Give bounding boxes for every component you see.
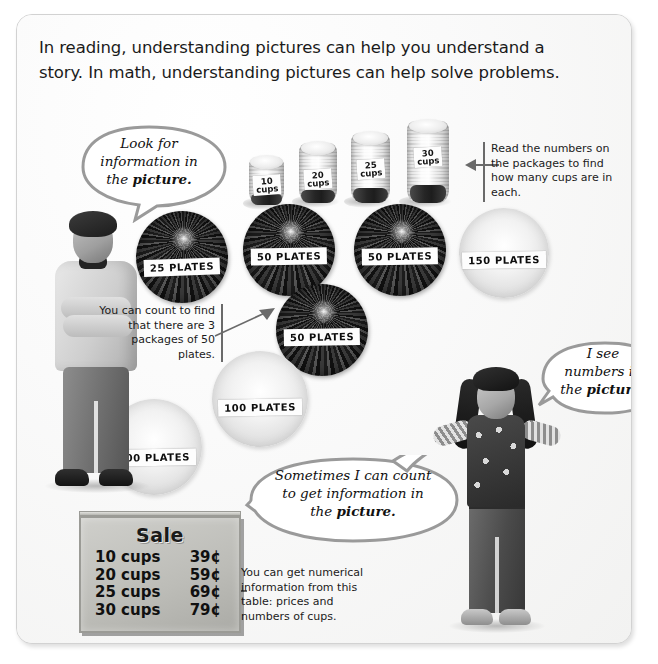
sale-row: 25 cups 69¢ [89, 584, 231, 602]
plate-package-150: 150 PLATES [459, 208, 549, 298]
bubble-line-2: information in [73, 153, 225, 171]
girl-shoe-left [461, 609, 493, 625]
plate-label-50-b: 50 PLATES [362, 247, 439, 265]
sale-row-item: 10 cups [95, 549, 160, 567]
girl-hair [473, 367, 519, 391]
sale-row-item: 30 cups [95, 602, 160, 620]
sale-row: 10 cups 39¢ [89, 549, 231, 567]
sale-row-price: 69¢ [190, 584, 221, 602]
plate-label-100-a: 100 PLATES [218, 398, 302, 416]
callout-rule [483, 142, 485, 202]
cup-rim [301, 141, 336, 155]
plate-label-50-c: 50 PLATES [284, 328, 361, 346]
boy-leg-split [94, 401, 98, 473]
boy-shoe-right [99, 469, 133, 486]
cup-rim [409, 119, 448, 133]
cup-label-30: 30 cups [413, 146, 443, 168]
plate-label-150: 150 PLATES [462, 251, 546, 269]
sale-sign-title: Sale [89, 524, 231, 546]
plate-package-50-a: 50 PLATES [243, 204, 335, 296]
cup-rim [353, 131, 389, 145]
callout-numerical-table-text: You can get numerical information from t… [241, 566, 371, 625]
plate-package-100-a: 100 PLATES [212, 351, 308, 447]
speech-bubble-look-for-information: Look for information in the picture. [73, 135, 225, 189]
bubble-line-2: numbers in [541, 363, 632, 381]
bubble-line-1: Look for [73, 135, 225, 153]
bubble-line-3-prefix: the [310, 503, 336, 519]
cup-package-10: 10 cups [249, 157, 284, 205]
girl-leg-split [495, 537, 499, 613]
sale-row-price: 59¢ [190, 567, 221, 585]
sale-sign: Sale 10 cups 39¢ 20 cups 59¢ 25 cups 69¢… [79, 516, 241, 633]
speech-bubble-sometimes-i-can-count: Sometimes I can count to get information… [247, 467, 459, 521]
sale-row-item: 20 cups [95, 567, 160, 585]
cup-base [353, 188, 387, 203]
girl-shoe-right [499, 609, 531, 625]
bubble-line-3-emphasis: picture. [337, 503, 396, 519]
bubble-line-3-emphasis: picture. [587, 381, 632, 397]
sale-row-price: 79¢ [190, 602, 221, 620]
sale-row-price: 39¢ [190, 549, 221, 567]
plate-label-25: 25 PLATES [144, 257, 221, 277]
textbook-page: In reading, understanding pictures can h… [0, 0, 658, 664]
speech-bubble-i-see-numbers: I see numbers in the picture. [541, 345, 632, 399]
callout-read-numbers-text: Read the numbers on the packages to find… [491, 142, 627, 201]
girl-vest [467, 415, 525, 507]
bubble-line-3: the picture. [541, 381, 632, 399]
cup-rim [250, 155, 282, 169]
plate-package-50-b: 50 PLATES [354, 204, 446, 296]
cup-base [301, 190, 334, 203]
intro-paragraph: In reading, understanding pictures can h… [39, 35, 579, 85]
callout-count-packages: You can count to find that there are 3 p… [99, 304, 223, 363]
bubble-line-3-emphasis: picture. [133, 171, 192, 187]
callout-arrow-upright-icon [213, 306, 277, 340]
cup-package-25: 25 cups [351, 133, 390, 203]
plate-label-50-a: 50 PLATES [251, 247, 328, 265]
callout-count-packages-text: You can count to find that there are 3 p… [99, 304, 215, 363]
cup-label-10: 10 cups [252, 174, 282, 196]
bubble-line-3-prefix: the [560, 381, 586, 397]
sale-row: 20 cups 59¢ [89, 567, 231, 585]
bubble-line-2: to get information in [247, 485, 459, 503]
sale-row: 30 cups 79¢ [89, 602, 231, 620]
bubble-line-3: the picture. [73, 171, 225, 189]
cup-label-25: 25 cups [356, 158, 386, 180]
sale-row-item: 25 cups [95, 584, 160, 602]
bubble-line-1: I see [541, 345, 632, 363]
bubble-line-3-prefix: the [106, 171, 132, 187]
cup-base [251, 194, 282, 205]
bubble-line-1: Sometimes I can count [247, 467, 459, 485]
content-panel: In reading, understanding pictures can h… [16, 14, 632, 644]
bubble-line-3: the picture. [247, 503, 459, 521]
boy-shoe-left [55, 469, 89, 486]
callout-read-numbers: Read the numbers on the packages to find… [483, 142, 627, 201]
cup-package-20: 20 cups [299, 143, 337, 203]
cup-label-20: 20 cups [303, 168, 333, 190]
cup-base [410, 185, 447, 203]
cup-package-30: 30 cups [407, 121, 449, 203]
callout-numerical-table: You can get numerical information from t… [233, 566, 371, 625]
